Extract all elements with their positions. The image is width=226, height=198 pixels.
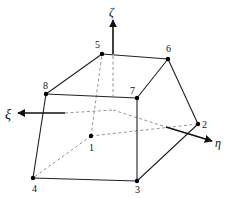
node-5 xyxy=(100,52,104,56)
node-label-7: 7 xyxy=(130,85,135,96)
edge-6-7 xyxy=(137,59,168,98)
node-label-8: 8 xyxy=(43,80,48,91)
edge-3-2 xyxy=(137,124,198,181)
node-label-1: 1 xyxy=(89,142,94,153)
xi-axis-hidden xyxy=(65,110,113,113)
node-2 xyxy=(196,122,200,126)
node-label-5: 5 xyxy=(95,39,100,50)
node-label-2: 2 xyxy=(202,119,207,130)
hidden-edge-1-4 xyxy=(33,136,91,178)
hidden-edge-1-5 xyxy=(91,54,102,136)
axes: ζ ξ η xyxy=(5,5,221,150)
edge-8-7 xyxy=(46,94,137,98)
edge-4-3 xyxy=(33,178,137,181)
node-6 xyxy=(166,57,170,61)
edge-6-2 xyxy=(168,59,198,124)
edge-5-8 xyxy=(46,54,102,94)
node-4 xyxy=(31,176,35,180)
zeta-axis-label: ζ xyxy=(109,5,115,19)
node-label-3: 3 xyxy=(135,184,140,195)
node-7 xyxy=(135,96,139,100)
eta-axis-hidden xyxy=(113,110,166,127)
xi-axis-label: ξ xyxy=(5,107,11,122)
edge-5-6 xyxy=(102,54,168,59)
node-1 xyxy=(89,134,93,138)
hidden-edge-1-2 xyxy=(91,124,198,136)
node-8 xyxy=(44,92,48,96)
node-label-4: 4 xyxy=(32,183,37,194)
visible-edges xyxy=(33,54,198,181)
edge-8-4 xyxy=(33,94,46,178)
hidden-edges xyxy=(33,54,198,178)
hexahedral-element-diagram: ζ ξ η 1 2 3 4 5 6 7 8 xyxy=(0,0,226,198)
node-3 xyxy=(135,179,139,183)
nodes xyxy=(31,52,200,183)
eta-axis-label: η xyxy=(215,136,221,150)
node-labels: 1 2 3 4 5 6 7 8 xyxy=(32,39,207,195)
node-label-6: 6 xyxy=(166,43,171,54)
